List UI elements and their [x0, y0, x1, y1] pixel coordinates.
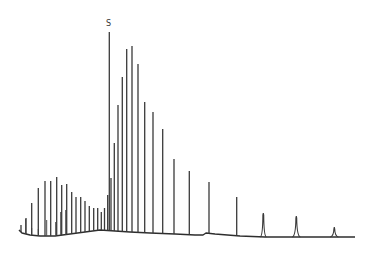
chromatogram-peak [330, 227, 338, 237]
peak-label-s: S [106, 19, 111, 28]
chromatogram-peak [260, 213, 266, 237]
chromatogram-plot [0, 0, 373, 258]
baseline-trace [19, 230, 355, 237]
chromatogram-peak [292, 216, 300, 237]
chromatogram-figure: S [0, 0, 373, 258]
